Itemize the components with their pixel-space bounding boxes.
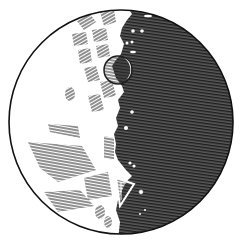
dark-hemisphere bbox=[112, 4, 240, 240]
moon-illustration bbox=[0, 0, 242, 244]
moon-disk bbox=[9, 4, 240, 240]
crater-large bbox=[104, 56, 132, 84]
